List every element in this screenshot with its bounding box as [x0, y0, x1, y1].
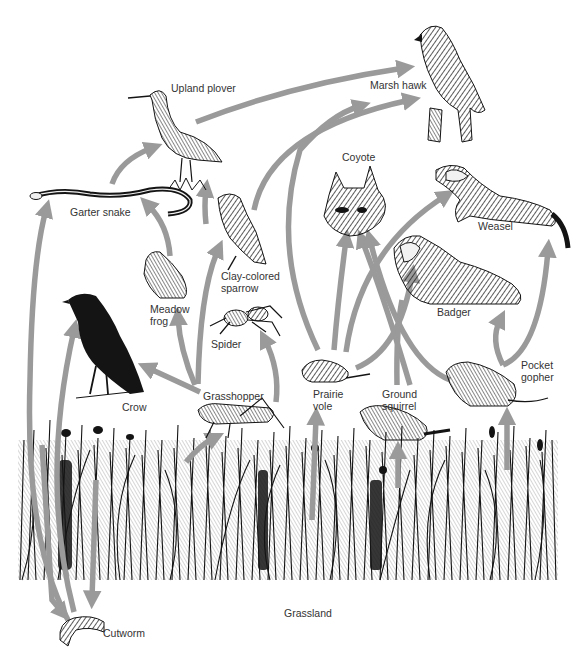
grasshopper-illustration [198, 398, 284, 438]
arrow-vole-to-coyote [334, 240, 346, 350]
upland-plover-illustration [128, 91, 222, 190]
label-grassland: Grassland [284, 607, 332, 619]
clay-colored-sparrow-illustration [218, 194, 266, 270]
label-prairie-vole: Prairie vole [313, 388, 343, 412]
arrow-grasshopper-to-sparrow [198, 250, 218, 384]
label-coyote: Coyote [342, 151, 375, 163]
label-garter-snake: Garter snake [70, 206, 131, 218]
arrow-frog-to-garter-snake [148, 205, 170, 256]
arrow-grasshopper-to-meadow-frog [178, 318, 195, 385]
badger-illustration [394, 236, 521, 304]
arrow-grasshopper-to-spider [265, 340, 277, 402]
grassland-illustration [18, 420, 558, 580]
label-upland-plover: Upland plover [171, 82, 236, 94]
spider-illustration [210, 306, 282, 336]
label-meadow-frog: Meadow frog [150, 303, 190, 327]
label-weasel: Weasel [478, 220, 513, 232]
label-marsh-hawk: Marsh hawk [370, 79, 427, 91]
weasel-illustration [436, 165, 568, 248]
arrow-pocket-gopher-to-weasel [503, 250, 548, 365]
coyote-illustration [324, 166, 386, 236]
label-spider: Spider [211, 338, 241, 350]
label-crow: Crow [122, 401, 147, 413]
arrow-plover-to-marsh-hawk [196, 68, 404, 122]
arrow-garter-snake-to-plover [112, 148, 152, 184]
label-ground-squirrel: Ground squirrel [382, 388, 417, 412]
arrow-sparrow-to-plover [205, 190, 206, 224]
food-web-canvas [0, 0, 581, 655]
label-pocket-gopher: Pocket gopher [521, 359, 554, 383]
label-clay-colored-sparrow: Clay-colored sparrow [221, 270, 280, 294]
meadow-frog-illustration [144, 252, 187, 298]
label-grasshopper: Grasshopper [203, 390, 264, 402]
crow-illustration [62, 294, 144, 398]
label-badger: Badger [437, 306, 471, 318]
food-web-diagram: Upland plover Marsh hawk Garter snake Co… [0, 0, 581, 655]
arrow-pocket-gopher-to-badger [496, 320, 503, 365]
cutworm-illustration [60, 617, 104, 646]
arrow-ground-squirrel-to-badger [397, 300, 402, 385]
label-cutworm: Cutworm [103, 627, 145, 639]
